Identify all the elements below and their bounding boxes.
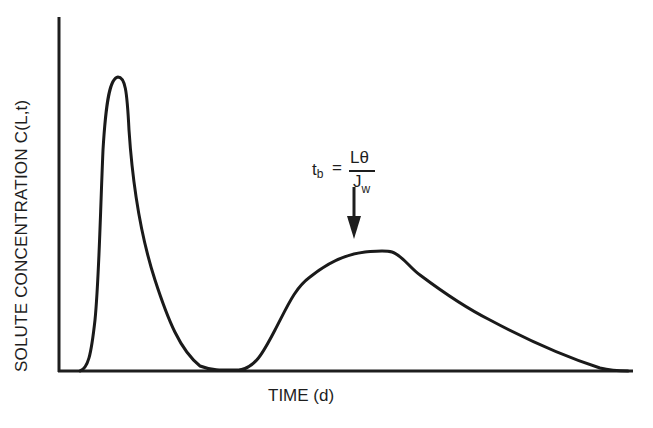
annotation-sub-b: b — [317, 167, 324, 181]
annotation-numerator: Lθ — [350, 148, 369, 168]
annotation-J: J — [353, 172, 362, 191]
annotation-equals: = — [332, 158, 342, 178]
late-peak-curve — [240, 251, 628, 371]
y-axis-label: SOLUTE CONCENTRATION C(L,t) — [12, 100, 32, 372]
early-peak-curve — [80, 77, 245, 371]
x-axis-label: TIME (d) — [268, 386, 334, 406]
chart-canvas — [0, 0, 653, 428]
annotation-denominator: Jw — [353, 172, 370, 196]
annotation-sub-w: w — [362, 182, 371, 196]
annotation-lhs: tb — [312, 160, 323, 181]
